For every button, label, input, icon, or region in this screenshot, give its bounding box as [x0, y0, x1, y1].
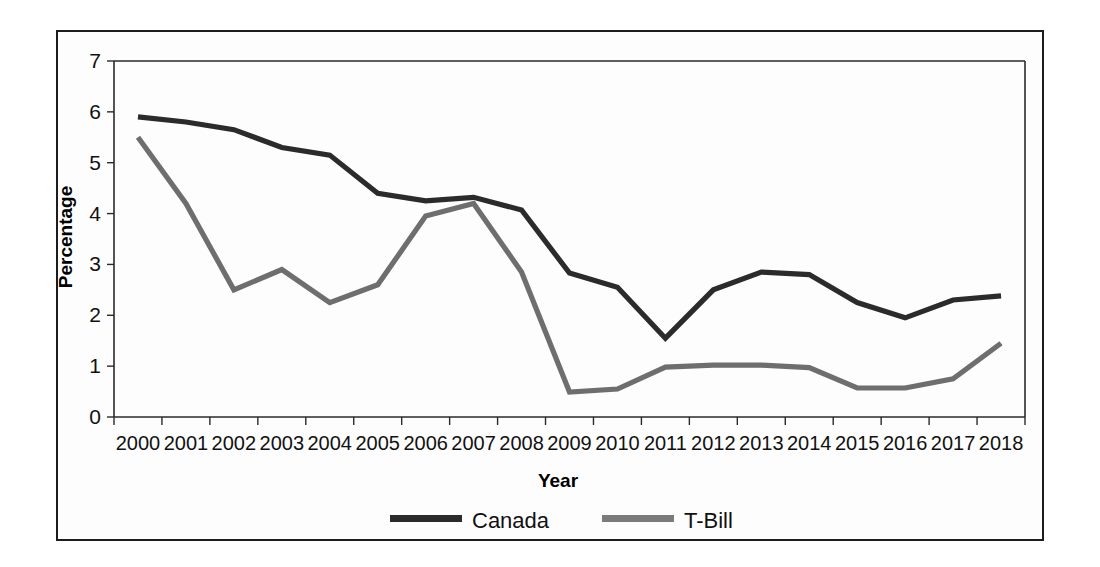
- line-chart-svg: 01234567 2000200120022003200420052006200…: [58, 32, 1042, 539]
- legend-swatch-t-bill: [602, 515, 674, 522]
- x-tick-label: 2007: [451, 432, 496, 454]
- x-tick-label: 2006: [403, 432, 448, 454]
- x-tick-label: 2016: [883, 432, 928, 454]
- x-tick-label: 2008: [499, 432, 543, 454]
- y-tick-label: 0: [89, 405, 101, 428]
- legend-label-t-bill: T-Bill: [684, 508, 733, 533]
- chart-figure-frame: 01234567 2000200120022003200420052006200…: [56, 30, 1044, 541]
- y-tick-label: 3: [89, 252, 101, 275]
- x-tick-label: 2010: [595, 432, 640, 454]
- y-axis: 01234567: [89, 49, 114, 428]
- legend-swatch-canada: [390, 515, 462, 522]
- x-tick-label: 2012: [691, 432, 736, 454]
- series-line-canada: [138, 117, 1001, 338]
- data-series-group: [138, 117, 1001, 392]
- y-tick-label: 1: [89, 354, 101, 377]
- chart-plot-area: 01234567 2000200120022003200420052006200…: [58, 32, 1042, 539]
- legend-label-canada: Canada: [472, 508, 550, 533]
- x-tick-label: 2017: [931, 432, 976, 454]
- x-tick-label: 2000: [116, 432, 161, 454]
- x-tick-label: 2014: [787, 432, 832, 454]
- y-axis-title: Percentage: [58, 186, 76, 288]
- x-tick-label: 2011: [644, 432, 687, 454]
- y-tick-label: 5: [89, 151, 101, 174]
- series-line-t-bill: [138, 137, 1001, 392]
- y-tick-label: 6: [89, 100, 101, 123]
- y-tick-label: 2: [89, 303, 101, 326]
- x-tick-label: 2005: [355, 432, 400, 454]
- x-tick-label: 2009: [547, 432, 592, 454]
- x-tick-label: 2003: [260, 432, 305, 454]
- y-tick-label: 7: [89, 49, 101, 72]
- y-tick-label: 4: [89, 202, 101, 225]
- x-tick-label: 2001: [164, 432, 209, 454]
- x-tick-label: 2018: [979, 432, 1024, 454]
- x-tick-label: 2015: [835, 432, 880, 454]
- x-axis-title: Year: [538, 470, 579, 491]
- x-axis: 2000200120022003200420052006200720082009…: [114, 61, 1025, 454]
- x-tick-label: 2004: [308, 432, 353, 454]
- chart-legend: CanadaT-Bill: [390, 508, 733, 533]
- x-tick-label: 2002: [212, 432, 256, 454]
- x-tick-label: 2013: [739, 432, 784, 454]
